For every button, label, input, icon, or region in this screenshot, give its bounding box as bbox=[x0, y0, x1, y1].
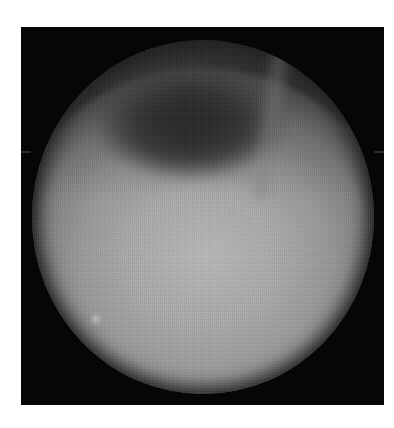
bright-spot bbox=[90, 312, 102, 326]
endoscopic-field-of-view bbox=[32, 40, 374, 394]
image-canvas bbox=[0, 0, 394, 428]
left-edge-tick bbox=[21, 151, 31, 153]
illuminated-mucosa bbox=[112, 180, 302, 330]
right-edge-tick bbox=[374, 151, 384, 153]
scope-frame bbox=[21, 27, 384, 405]
